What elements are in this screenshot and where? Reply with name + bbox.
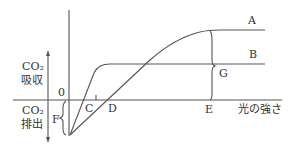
co2-emission-label-line1: CO₂: [22, 104, 44, 117]
point-e-label: E: [205, 103, 213, 116]
co2-emission-label-line2: 排出: [21, 117, 43, 131]
point-f-label: F: [52, 113, 60, 126]
arrow-down-icon: [46, 137, 50, 143]
x-axis-label: 光の強さ: [238, 102, 282, 116]
curve-a: [70, 30, 265, 135]
photosynthesis-light-curve-diagram: A B G C D E F 0 光の強さ CO₂ 吸収 CO₂ 排出: [0, 0, 292, 150]
co2-absorption-label-line2: 吸収: [21, 74, 43, 87]
brace-f: [60, 101, 66, 135]
co2-absorption-label-line1: CO₂: [22, 60, 44, 73]
point-g-label: G: [219, 67, 228, 80]
origin-label: 0: [58, 86, 65, 99]
point-d-label: D: [108, 102, 117, 115]
arrow-up-icon: [46, 50, 50, 56]
curve-a-label: A: [247, 14, 257, 27]
brace-g: [210, 31, 215, 100]
point-c-label: C: [85, 102, 93, 115]
curve-b-label: B: [249, 48, 257, 61]
